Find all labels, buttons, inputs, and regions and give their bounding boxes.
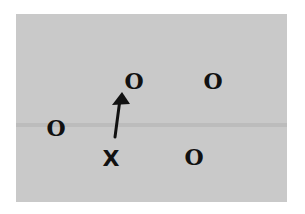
movement-arrow-icon — [0, 0, 305, 214]
